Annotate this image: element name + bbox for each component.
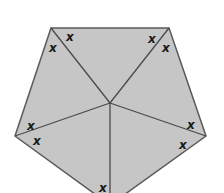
angle-mark: x [26,119,36,133]
angle-mark: x [161,41,171,55]
angle-mark: x [186,118,196,132]
angle-mark: x [178,138,188,152]
angle-mark: x [98,181,108,193]
angle-mark: x [32,134,42,148]
pentagon-diagram: x x x x x x x x x [0,0,224,193]
angle-mark: x [147,32,157,46]
angle-mark: x [48,41,58,55]
angle-mark: x [65,30,75,44]
